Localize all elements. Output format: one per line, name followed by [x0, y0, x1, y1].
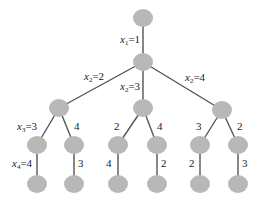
- label-x3-3: x3=3: [16, 120, 38, 134]
- label-x3-c: 2: [114, 120, 120, 132]
- tree-node-leaf: [190, 175, 210, 193]
- label-x3-f: 2: [237, 120, 243, 132]
- tree-node-level3: [228, 136, 248, 154]
- tree-node-level3: [147, 136, 167, 154]
- tree-node-leaf: [64, 175, 84, 193]
- edge-n1-n2c: [143, 62, 222, 110]
- label-x2-3: x2=3: [119, 80, 141, 94]
- label-x4-c: 4: [106, 157, 112, 169]
- tree-node-level1: [133, 53, 153, 71]
- edge-labels: x1=1 x2=2 x2=3 x2=4 x3=3 4 2 4 3 2 x4=4 …: [11, 33, 248, 171]
- label-x3-d: 4: [157, 120, 163, 132]
- label-x4-4: x4=4: [11, 157, 33, 171]
- tree-node-level2-right: [212, 101, 232, 119]
- label-x4-d: 2: [161, 157, 167, 169]
- tree-node-level3: [108, 136, 128, 154]
- label-x4-f: 3: [242, 157, 248, 169]
- tree-node-leaf: [147, 175, 167, 193]
- tree-node-level2-left: [49, 99, 69, 117]
- tree-node-level3: [27, 136, 47, 154]
- label-x1: x1=1: [119, 33, 140, 47]
- label-x2-2: x2=2: [83, 70, 104, 84]
- tree-node-root: [133, 9, 153, 27]
- label-x2-4: x2=4: [184, 71, 206, 85]
- tree-node-leaf: [27, 175, 47, 193]
- label-x4-e: 2: [189, 157, 195, 169]
- tree-node-level3: [190, 136, 210, 154]
- tree-diagram: x1=1 x2=2 x2=3 x2=4 x3=3 4 2 4 3 2 x4=4 …: [0, 0, 260, 205]
- tree-node-level2-middle: [133, 99, 153, 117]
- label-x4-b: 3: [78, 157, 84, 169]
- tree-node-leaf: [108, 175, 128, 193]
- tree-node-leaf: [228, 175, 248, 193]
- label-x3-b: 4: [74, 120, 80, 132]
- label-x3-e: 3: [196, 120, 202, 132]
- tree-node-level3: [64, 136, 84, 154]
